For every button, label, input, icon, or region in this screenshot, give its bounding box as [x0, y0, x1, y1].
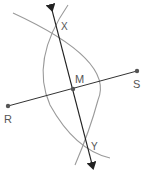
point-R: [6, 104, 10, 108]
point-S: [135, 69, 139, 73]
label-R: R: [4, 113, 12, 125]
diagram-canvas: R S M X Y: [0, 0, 149, 175]
label-M: M: [75, 73, 84, 85]
point-M: [71, 87, 75, 91]
perpendicular-bisector-diagram: R S M X Y: [0, 0, 149, 175]
label-X: X: [61, 21, 68, 32]
label-Y: Y: [91, 141, 98, 152]
label-S: S: [133, 78, 140, 90]
arc-from-R: [13, 13, 100, 165]
